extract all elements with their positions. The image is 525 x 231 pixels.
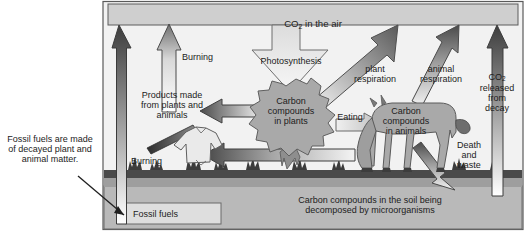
carbon-cycle-diagram: CO2 in the air Burning Burning Products … xyxy=(0,0,525,231)
annotation-fossil-fuel-note: Fossil fuels are made of decayed plant a… xyxy=(0,134,100,164)
label-products: Products made from plants and animals xyxy=(128,90,216,120)
label-co2-released-from-decay: CO2 released from decay xyxy=(472,62,522,113)
label-soil-carbon: Carbon compounds in the soil being decom… xyxy=(255,195,485,215)
label-eating: Eating xyxy=(330,112,370,122)
label-animal-respiration: animal respiration xyxy=(410,64,472,84)
atmosphere-label: CO2 in the air xyxy=(108,8,518,30)
label-fossil-fuels: Fossil fuels xyxy=(133,209,217,219)
label-plant-respiration: plant respiration xyxy=(347,64,403,84)
label-burning-fossil-fuels: Burning xyxy=(131,156,179,166)
label-death-and-waste: Death and waste xyxy=(448,140,490,170)
label-carbon-compounds-in-animals: Carbon compounds in animals xyxy=(370,106,442,136)
label-burning-products: Burning xyxy=(182,52,230,62)
label-photosynthesis: Photosynthesis xyxy=(245,56,337,66)
label-carbon-compounds-in-plants: Carbon compounds in plants xyxy=(255,96,327,126)
